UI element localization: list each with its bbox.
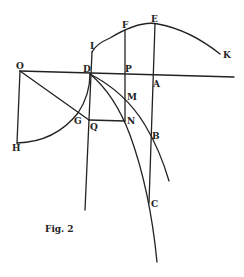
curve-DNC: [90, 74, 157, 262]
label-H: H: [12, 143, 21, 153]
line-OQ: [20, 71, 89, 120]
geometric-figure: O D P A I F E K M N Q G H B C Fig. 2: [0, 0, 244, 277]
line-EC-vertical: [149, 24, 155, 203]
curve-DMB: [90, 74, 169, 181]
label-Q: Q: [90, 122, 98, 132]
label-A: A: [152, 79, 161, 89]
label-N: N: [127, 116, 135, 126]
label-P: P: [125, 64, 132, 74]
label-E: E: [151, 14, 158, 24]
curve-IFEK: [92, 23, 220, 54]
label-M: M: [127, 92, 137, 102]
arc-HGD: [17, 74, 90, 143]
line-OH: [17, 71, 20, 143]
label-D: D: [83, 64, 91, 74]
label-I: I: [90, 41, 94, 51]
label-O: O: [16, 61, 24, 71]
figure-caption: Fig. 2: [45, 224, 74, 234]
label-G: G: [74, 116, 82, 126]
label-B: B: [152, 131, 160, 141]
label-K: K: [223, 50, 232, 60]
label-C: C: [151, 199, 158, 209]
line-QN: [89, 120, 125, 121]
label-F: F: [122, 20, 129, 30]
